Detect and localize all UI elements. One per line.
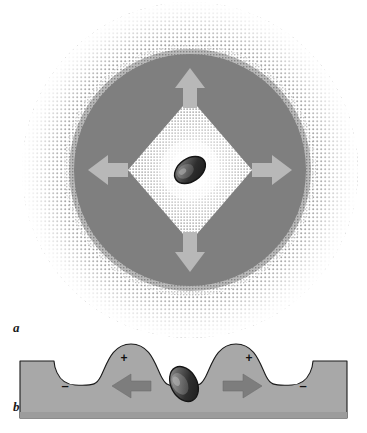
panel-a-top-view: a (0, 0, 367, 340)
panel-label-b: b (13, 400, 20, 413)
charge-minus-right-symbol: – (299, 378, 306, 393)
substrate-base (20, 412, 347, 418)
panel-label-a: a (13, 321, 20, 334)
panel-b-cross-section: + + – – b (0, 340, 367, 433)
charge-plus-right-symbol: + (245, 351, 252, 365)
panel-b-canvas: + + – – (0, 340, 367, 433)
charge-plus-left-symbol: + (120, 351, 127, 365)
charge-minus-left-symbol: – (61, 378, 68, 393)
panel-a-canvas (0, 0, 367, 340)
figure-root: a (0, 0, 367, 433)
